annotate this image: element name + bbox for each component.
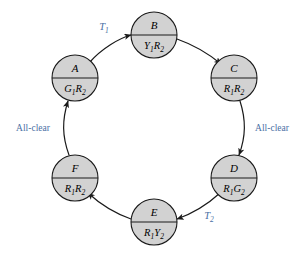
node-a-label: A xyxy=(71,62,79,74)
node-a[interactable]: A G1R2 xyxy=(52,55,98,101)
edge-label-t2: T2 xyxy=(204,210,214,224)
node-b-label: B xyxy=(151,19,158,31)
edge-b-to-c xyxy=(177,39,221,64)
edge-f-to-a xyxy=(64,101,69,155)
node-f-label: F xyxy=(71,162,79,174)
node-e-label: E xyxy=(150,206,158,218)
edge-c-to-d xyxy=(239,101,244,155)
edge-a-to-b xyxy=(89,35,131,63)
edge-label-all-clear-right: All-clear xyxy=(255,123,290,133)
node-e[interactable]: E R1Y2 xyxy=(131,199,177,245)
edge-label-all-clear-left: All-clear xyxy=(16,123,51,133)
node-f[interactable]: F R1R2 xyxy=(52,155,98,201)
edge-e-to-f xyxy=(88,193,131,219)
node-d[interactable]: D R1G2 xyxy=(211,155,257,201)
node-b[interactable]: B Y1R2 xyxy=(131,12,177,58)
node-c-label: C xyxy=(230,62,238,74)
edge-label-t1: T1 xyxy=(99,21,109,35)
state-machine-diagram: A G1R2 B Y1R2 C R1R2 D xyxy=(0,0,308,258)
node-d-label: D xyxy=(229,162,238,174)
diagram-canvas: A G1R2 B Y1R2 C R1R2 D xyxy=(0,0,308,258)
node-c[interactable]: C R1R2 xyxy=(211,55,257,101)
